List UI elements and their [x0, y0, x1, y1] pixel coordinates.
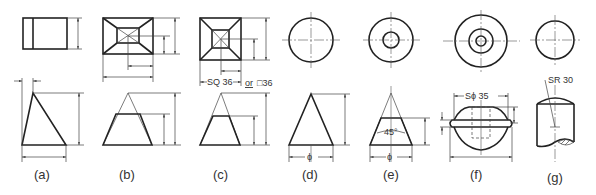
label-d: (d) — [302, 167, 318, 182]
view-e: 45° ϕ (e) — [363, 12, 430, 182]
annotation-diameter-d: ϕ — [307, 152, 312, 162]
annotation-sr30: SR 30 — [548, 75, 573, 85]
view-f: Sϕ 35 (f) — [440, 10, 520, 182]
label-a: (a) — [34, 167, 50, 182]
label-b: (b) — [119, 167, 135, 182]
technical-drawing: (a) (b) — [0, 0, 596, 195]
annotation-45deg: 45° — [384, 127, 398, 137]
view-c: SQ 36 or □36 (c) — [200, 18, 272, 182]
annotation-sphere-diameter: Sϕ 35 — [465, 91, 489, 101]
label-c: (c) — [213, 167, 228, 182]
annotation-or: or — [245, 78, 253, 88]
view-a: (a) — [14, 18, 84, 182]
view-d: ϕ (d) — [282, 12, 350, 182]
view-g: SR 30 (g) — [530, 15, 580, 185]
annotation-square36: □36 — [257, 78, 272, 88]
annotation-diameter-e: ϕ — [387, 152, 392, 162]
annotation-sq36: SQ 36 — [207, 77, 233, 87]
label-g: (g) — [547, 170, 563, 185]
view-b: (b) — [103, 18, 181, 182]
label-f: (f) — [470, 167, 482, 182]
label-e: (e) — [383, 167, 399, 182]
